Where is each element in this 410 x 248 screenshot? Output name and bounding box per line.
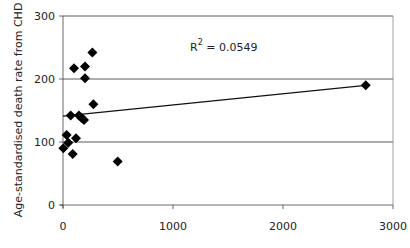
x-tick-label: 1000 xyxy=(159,220,187,233)
y-axis-label: Age-standardised death rate from CHD xyxy=(12,3,25,218)
y-tick-label: 0 xyxy=(48,199,55,212)
y-tick-label: 200 xyxy=(34,73,55,86)
data-point xyxy=(69,63,79,73)
scatter-chart: 01002003000100020003000 Age-standardised… xyxy=(0,0,410,248)
r-squared-annotation: R2 = 0.0549 xyxy=(190,38,257,54)
data-point xyxy=(88,99,98,109)
data-point xyxy=(113,157,123,167)
x-tick-label: 3000 xyxy=(379,220,407,233)
data-point xyxy=(80,73,90,83)
data-point xyxy=(87,48,97,58)
x-tick-label: 2000 xyxy=(269,220,297,233)
y-tick-label: 300 xyxy=(34,10,55,23)
x-tick-label: 0 xyxy=(60,220,67,233)
trendline xyxy=(63,85,366,116)
data-point xyxy=(68,149,78,159)
data-point xyxy=(80,61,90,71)
y-tick-label: 100 xyxy=(34,136,55,149)
data-point xyxy=(361,80,371,90)
